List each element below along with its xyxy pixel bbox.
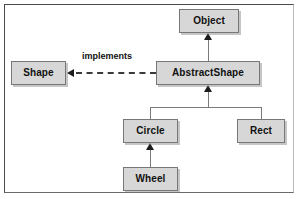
class-box-object[interactable]: Object	[179, 9, 239, 33]
class-name-abstractshape: AbstractShape	[172, 68, 244, 78]
class-box-rect[interactable]: Rect	[237, 119, 285, 143]
arrowhead-generalization-circle	[146, 143, 154, 150]
edge-label-implements: implements	[82, 52, 132, 61]
connector-tree-crossbar	[150, 107, 262, 108]
arrowhead-generalization-abstractshape	[204, 85, 212, 92]
class-box-wheel[interactable]: Wheel	[123, 167, 178, 191]
class-box-circle[interactable]: Circle	[123, 119, 178, 143]
connector-abstractshape-implements-shape	[76, 72, 156, 74]
connector-tree-branch-rect	[261, 107, 262, 119]
connector-tree-branch-circle	[150, 107, 151, 119]
class-box-shape[interactable]: Shape	[11, 61, 66, 85]
class-name-rect: Rect	[250, 126, 272, 136]
class-name-circle: Circle	[136, 126, 164, 136]
class-name-wheel: Wheel	[136, 174, 166, 184]
connector-abstractshape-to-object	[208, 38, 209, 61]
connector-tree-trunk-abstractshape	[208, 92, 209, 108]
class-name-shape: Shape	[23, 68, 54, 78]
class-name-object: Object	[193, 16, 225, 26]
arrowhead-generalization-object	[204, 33, 212, 40]
arrowhead-realization-shape	[67, 69, 74, 77]
class-box-abstractshape[interactable]: AbstractShape	[156, 61, 260, 85]
diagram-frame-border	[4, 4, 294, 193]
uml-class-diagram: implements Object Shape AbstractShape Ci…	[0, 0, 300, 199]
connector-wheel-to-circle	[150, 150, 151, 167]
